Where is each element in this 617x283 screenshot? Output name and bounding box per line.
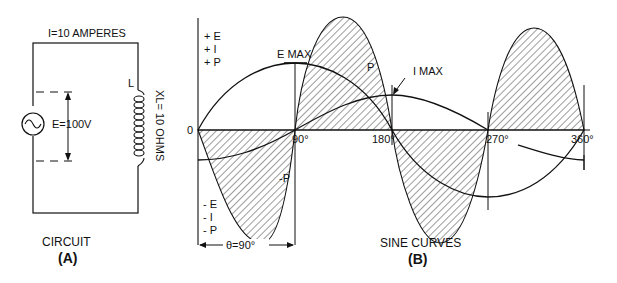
origin-label: 0 — [187, 124, 193, 136]
tick-360: 360° — [571, 133, 594, 145]
power-positive-area-1 — [295, 17, 392, 130]
emax-label: E MAX — [277, 48, 312, 60]
tick-270: 270° — [486, 133, 509, 145]
reactance-label: XL= 10 OHMS — [154, 90, 166, 161]
inductive-circuit-diagram: I=10 AMPERES E=100V L XL= 10 OHMS CIRCUI… — [0, 0, 617, 283]
legend-plus-i: + I — [204, 43, 217, 55]
tick-90: 90° — [292, 133, 309, 145]
neg-p-label: -P — [279, 172, 290, 184]
imax-label: I MAX — [413, 65, 444, 77]
graph-caption: SINE CURVES — [380, 236, 461, 250]
diagram-canvas: I=10 AMPERES E=100V L XL= 10 OHMS CIRCUI… — [0, 0, 617, 283]
legend-minus-p: - P — [203, 224, 217, 236]
power-negative-area-2 — [392, 130, 488, 243]
legend-plus-p: + P — [204, 56, 221, 68]
circuit-a: I=10 AMPERES E=100V L XL= 10 OHMS CIRCUI… — [20, 27, 166, 266]
legend-minus-i: - I — [203, 211, 213, 223]
circuit-letter: (A) — [58, 250, 77, 266]
p-label: P — [367, 61, 374, 73]
voltage-label: E=100V — [52, 118, 92, 130]
inductor-label: L — [128, 77, 134, 89]
legend-minus-e: - E — [203, 198, 217, 210]
graph-letter: (B) — [408, 251, 427, 267]
power-positive-area-2 — [488, 28, 584, 130]
circuit-caption: CIRCUIT — [42, 235, 91, 249]
current-label: I=10 AMPERES — [48, 27, 126, 39]
legend-plus-e: + E — [204, 30, 221, 42]
theta-label: θ=90° — [226, 239, 255, 251]
tick-180: 180° — [372, 133, 395, 145]
sine-curves-b: + E + I + P - E - I - P 0 90° 180° 270° … — [187, 17, 594, 267]
